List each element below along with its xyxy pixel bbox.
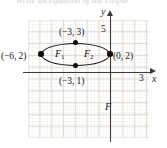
point-vertex-right: [107, 51, 112, 56]
x-axis-label: x: [152, 73, 156, 84]
x-axis-tick-3: 3: [139, 73, 144, 83]
y-axis-line: [110, 16, 111, 142]
cut-off-caption: Write an equation of the ellipse: [16, 0, 166, 5]
point-vertex-left: [38, 51, 43, 56]
focus-2-label: F2: [84, 48, 94, 61]
y-axis-tick-5: 5: [101, 24, 106, 34]
y-axis-label: y: [101, 6, 105, 17]
vertex-right-coordinate-label: (0, 2): [113, 51, 133, 61]
focus-2-subscript: 2: [90, 53, 94, 61]
covertex-bottom-coordinate-label: (−3, 1): [59, 76, 84, 86]
stray-focus-label: F: [105, 101, 111, 112]
y-axis-arrow-icon: [107, 10, 113, 16]
focus-1-label: F1: [55, 48, 65, 61]
covertex-top-coordinate-label: (−3, 3): [59, 27, 84, 37]
point-covertex-bottom: [73, 63, 78, 68]
ellipse-figure: Write an equation of the ellipse y x 5 3…: [0, 0, 167, 148]
coordinate-grid-dots: [28, 20, 149, 138]
focus-1-subscript: 1: [61, 53, 65, 61]
x-axis-line: [23, 72, 152, 73]
vertex-left-coordinate-label: (−6, 2): [1, 51, 26, 61]
